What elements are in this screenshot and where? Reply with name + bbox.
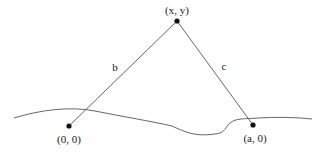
label-edge-b: b xyxy=(112,61,118,73)
terrain-line xyxy=(14,109,312,135)
edge-c xyxy=(177,21,253,125)
triangulation-diagram: (x, y) (0, 0) (a, 0) b c xyxy=(0,0,325,154)
label-right: (a, 0) xyxy=(243,132,267,145)
label-origin: (0, 0) xyxy=(57,133,81,146)
point-origin xyxy=(66,123,71,128)
label-edge-c: c xyxy=(222,60,227,72)
edge-b xyxy=(69,21,177,126)
label-apex: (x, y) xyxy=(165,4,189,17)
point-right xyxy=(250,122,255,127)
point-apex xyxy=(174,18,179,23)
